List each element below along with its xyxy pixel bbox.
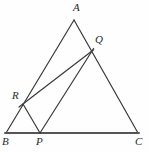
geometry-figure: A Q R B P C <box>0 0 148 153</box>
geometry-canvas <box>0 0 148 153</box>
segment-rp <box>23 104 40 133</box>
vertex-label-b: B <box>2 136 9 147</box>
vertex-label-q: Q <box>95 34 103 45</box>
vertex-label-p: P <box>36 136 43 147</box>
vertex-label-c: C <box>135 136 142 147</box>
segment-pq <box>40 48 94 133</box>
vertex-label-a: A <box>73 2 80 13</box>
segment-side-ac <box>74 20 138 133</box>
segment-rq <box>19 50 94 107</box>
vertex-label-r: R <box>12 90 19 101</box>
segment-side-ab <box>6 20 74 133</box>
